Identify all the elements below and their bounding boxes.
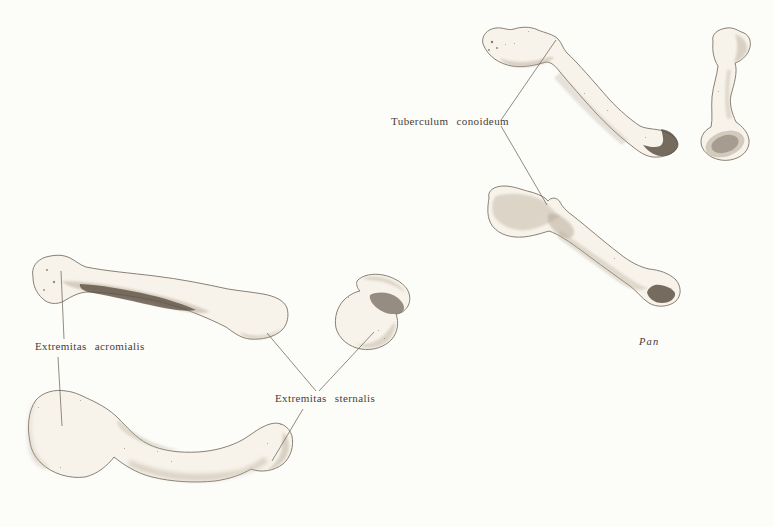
label-extremitas-acromialis: Extremitas acromialis: [35, 340, 145, 352]
pointer-line-sternalis-left: [267, 333, 316, 391]
stipple-texture: [28, 27, 750, 482]
bone-group: [28, 27, 750, 482]
label-tuberculum-conoideum: Tuberculum conoideum: [391, 115, 509, 127]
anatomical-plate: Tuberculum conoideum Extremitas acromial…: [0, 0, 774, 527]
label-extremitas-sternalis: Extremitas sternalis: [275, 392, 375, 404]
clavicle-illustration-canvas: [0, 0, 774, 527]
caption-genus-pan: Pan: [639, 336, 660, 348]
